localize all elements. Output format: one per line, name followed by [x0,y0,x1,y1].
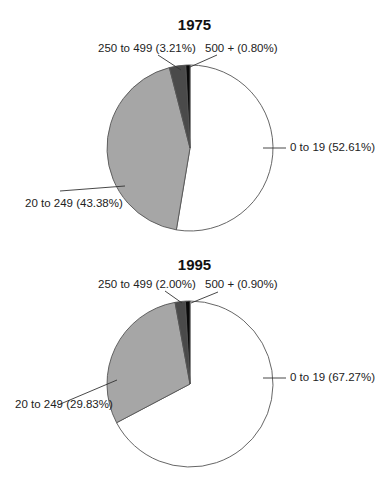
label-250-to-499-1995: 250 to 499 (2.00%) [98,278,196,290]
label-250-to-499-1975: 250 to 499 (3.21%) [98,42,196,54]
pie-1975 [107,65,273,231]
pie-1995 [107,301,273,467]
label-20-to-249-1975: 20 to 249 (43.38%) [25,197,123,209]
label-500-plus-1995: 500 + (0.90%) [205,278,278,290]
chart-title-1995: 1995 [0,256,389,273]
label-0-to-19-1975: 0 to 19 (52.61%) [290,141,375,153]
label-500-plus-1975: 500 + (0.80%) [205,42,278,54]
slice-0-to-19-1975 [176,65,273,231]
label-20-to-249-1995: 20 to 249 (29.83%) [15,398,113,410]
pie-charts-canvas [0,0,389,485]
label-0-to-19-1995: 0 to 19 (67.27%) [290,371,375,383]
